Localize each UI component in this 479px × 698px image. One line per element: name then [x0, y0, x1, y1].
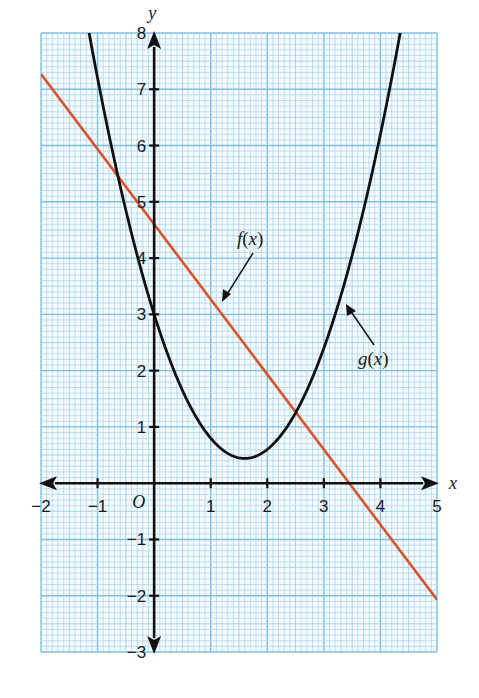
- y-tick-label: 1: [137, 418, 146, 437]
- y-tick-label: 7: [137, 80, 146, 99]
- y-tick-label: −2: [127, 587, 146, 606]
- y-tick-label: −1: [127, 530, 146, 549]
- x-tick-label: 1: [206, 497, 215, 516]
- x-tick-label: 5: [432, 497, 441, 516]
- x-axis-label: x: [448, 473, 457, 493]
- grid: [41, 33, 437, 652]
- x-tick-label: −1: [88, 497, 107, 516]
- f-label: f(x): [237, 228, 263, 250]
- x-tick-label: −2: [31, 497, 50, 516]
- y-tick-label: 2: [137, 362, 146, 381]
- x-tick-label: 2: [263, 497, 272, 516]
- y-tick-label: 5: [137, 193, 146, 212]
- y-tick-label: 8: [137, 24, 146, 43]
- y-tick-label: −3: [127, 643, 146, 662]
- y-axis-label: y: [146, 3, 156, 23]
- y-tick-label: 3: [137, 305, 146, 324]
- g-label: g(x): [358, 348, 389, 370]
- y-tick-label: 6: [137, 137, 146, 156]
- origin-label: O: [132, 492, 145, 512]
- x-tick-label: 3: [319, 497, 328, 516]
- function-graph: −2−11234587654321−1−2−3xyOf(x)g(x): [0, 0, 479, 698]
- y-tick-label: 4: [137, 249, 146, 268]
- x-tick-label: 4: [376, 497, 385, 516]
